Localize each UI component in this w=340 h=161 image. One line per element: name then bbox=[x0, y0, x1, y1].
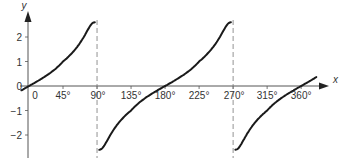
x-axis-label: x bbox=[332, 74, 339, 85]
x-tick-label: 225° bbox=[189, 90, 210, 101]
x-tick-label: 360° bbox=[291, 90, 312, 101]
x-tick-label: 45° bbox=[55, 90, 70, 101]
tan-curve-branch bbox=[235, 77, 316, 150]
origin-label: 0 bbox=[16, 81, 22, 92]
y-tick-label: −2 bbox=[11, 130, 23, 141]
tan-curve-branch bbox=[21, 22, 94, 90]
axes bbox=[20, 11, 329, 158]
tangent-graph: 045°90°135°180°225°270°315°360°21−1−20yx bbox=[0, 0, 340, 161]
y-tick-label: −1 bbox=[11, 106, 23, 117]
x-tick-label: 0 bbox=[32, 90, 38, 101]
x-tick-label: 135° bbox=[121, 90, 142, 101]
x-tick-label: 180° bbox=[155, 90, 176, 101]
x-tick-label: 90° bbox=[90, 90, 105, 101]
labels: 045°90°135°180°225°270°315°360°21−1−20yx bbox=[11, 0, 339, 141]
x-tick-label: 270° bbox=[224, 90, 245, 101]
x-tick-label: 315° bbox=[257, 90, 278, 101]
x-axis-arrow bbox=[319, 83, 329, 90]
y-axis-arrow bbox=[25, 11, 32, 22]
y-tick-label: 2 bbox=[16, 32, 22, 43]
y-tick-label: 1 bbox=[16, 57, 22, 68]
y-axis-label: y bbox=[21, 0, 28, 11]
